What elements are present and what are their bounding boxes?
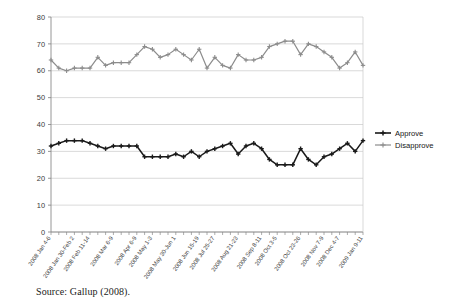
- y-tick-label: 10: [37, 201, 45, 210]
- y-tick-label: 20: [37, 174, 45, 183]
- gallup-approval-figure: 010203040506070802008 Jan 4-62008 Jan 30…: [0, 0, 457, 305]
- x-axis-labels: 2008 Jan 4-62008 Jan 30-Feb 22008 Feb 11…: [27, 235, 364, 280]
- y-tick-label: 40: [37, 120, 45, 129]
- y-axis-ticks: 01020304050607080: [37, 13, 51, 237]
- chart-legend: ApproveDisapprove: [375, 129, 433, 150]
- legend-label-approve: Approve: [395, 129, 423, 138]
- x-tick-label: 2008 Mar 6-9: [89, 235, 114, 267]
- x-tick-label: 2008 Jan 4-6: [27, 235, 52, 267]
- source-note: Source: Gallup (2008).: [36, 286, 130, 297]
- y-tick-label: 0: [41, 228, 45, 237]
- x-tick-label: 2009 Jan 9-11: [338, 235, 364, 269]
- y-tick-label: 70: [37, 40, 45, 49]
- y-tick-label: 50: [37, 93, 45, 102]
- legend-label-disapprove: Disapprove: [395, 141, 433, 150]
- x-axis-ticks: [51, 232, 363, 235]
- legend-swatch-marker: [380, 130, 385, 135]
- y-tick-label: 60: [37, 66, 45, 75]
- y-tick-label: 80: [37, 13, 45, 22]
- x-tick-label: 2008 Oct 23-26: [273, 235, 302, 272]
- approval-line-chart: 010203040506070802008 Jan 4-62008 Jan 30…: [0, 0, 457, 305]
- legend-swatch-marker: [380, 142, 385, 147]
- y-tick-label: 30: [37, 147, 45, 156]
